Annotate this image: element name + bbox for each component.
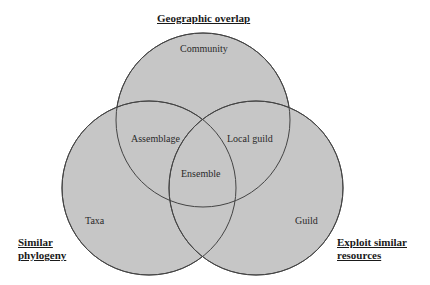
label-local-guild: Local guild bbox=[227, 133, 273, 144]
label-guild: Guild bbox=[295, 215, 318, 226]
title-exploit-similar-resources: Exploit similar resources bbox=[337, 236, 407, 262]
title-geographic-overlap: Geographic overlap bbox=[157, 12, 250, 25]
label-assemblage: Assemblage bbox=[131, 133, 180, 144]
label-taxa: Taxa bbox=[85, 215, 104, 226]
title-similar-phylogeny: Similar phylogeny bbox=[18, 236, 66, 262]
title-similar-phylogeny-line2: phylogeny bbox=[18, 249, 66, 262]
title-exploit-line2: resources bbox=[337, 249, 407, 262]
circle-exploit-similar-resources bbox=[169, 101, 343, 275]
label-ensemble: Ensemble bbox=[181, 168, 220, 179]
label-community: Community bbox=[180, 43, 228, 54]
title-similar-phylogeny-line1: Similar bbox=[18, 236, 66, 249]
title-exploit-line1: Exploit similar bbox=[337, 236, 407, 249]
